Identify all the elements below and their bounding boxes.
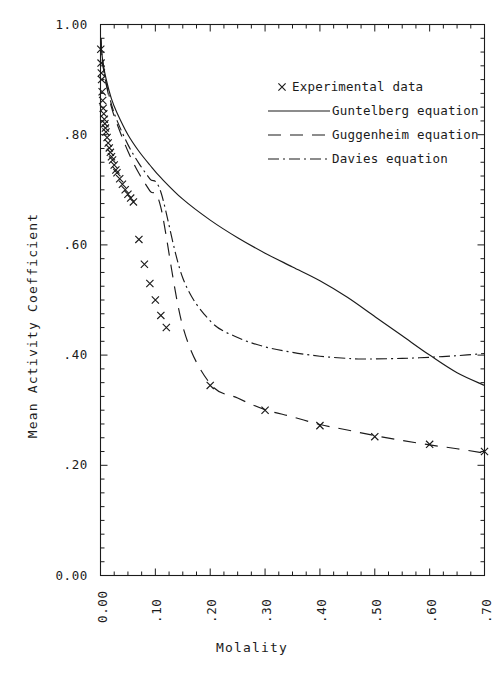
data-point-marker [99,88,106,95]
y-tick-label: .80 [32,127,88,142]
legend-marker-sample [278,83,285,90]
x-tick-label: .50 [369,599,384,623]
x-tick-label: .20 [204,599,219,623]
legend-label-davies-equation: Davies equation [332,151,448,166]
x-tick-label: .10 [149,599,164,623]
legend-samples [268,83,330,159]
curve-guggenheim-equation [101,38,485,453]
data-point-marker [371,433,378,440]
data-point-marker [157,312,164,319]
x-tick-label: .40 [314,599,329,623]
x-tick-label: 0.00 [95,590,110,623]
x-axis-title: Molality [0,640,504,655]
y-tick-label: 1.00 [32,17,88,32]
y-tick-label: .20 [32,457,88,472]
y-axis-title: Mean Activity Coefficient [25,176,40,476]
x-tick-label: .70 [479,599,494,623]
data-series [97,38,488,455]
data-point-marker [163,324,170,331]
data-point-marker [127,194,134,201]
data-point-marker [124,191,131,198]
data-point-marker [146,280,153,287]
chart-figure: Mean Activity Coefficient Molality 0.00.… [0,0,504,683]
legend-label-experimental-data: Experimental data [292,79,423,94]
data-point-marker [130,198,137,205]
legend-label-guntelberg-equation: Guntelberg equation [332,103,479,118]
x-tick-label: .60 [424,599,439,623]
data-point-marker [105,139,112,146]
data-point-marker [141,261,148,268]
y-tick-label: 0.00 [32,568,88,583]
x-tick-label: .30 [259,599,274,623]
data-point-marker [152,296,159,303]
legend-label-guggenheim-equation: Guggenheim equation [332,127,479,142]
y-tick-label: .40 [32,347,88,362]
data-point-marker [207,382,214,389]
data-point-marker [135,236,142,243]
y-tick-label: .60 [32,237,88,252]
